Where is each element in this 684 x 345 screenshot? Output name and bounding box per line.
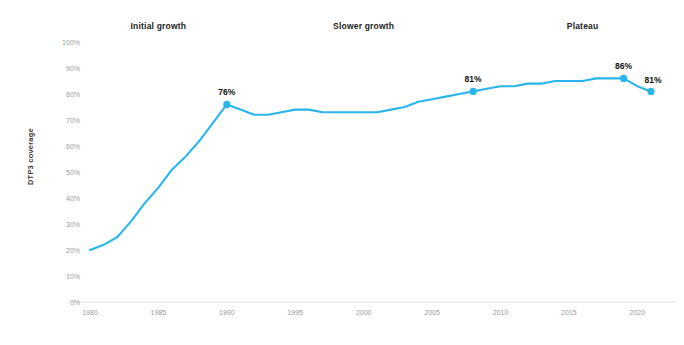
line-chart: DTP3 coverage 0%10%20%30%40%50%60%70%80%… [0, 0, 684, 345]
y-axis-tick-label: 50% [48, 169, 80, 176]
data-point-marker [620, 75, 627, 82]
data-point-value-label: 81% [465, 74, 482, 84]
chart-plot-area [0, 0, 684, 345]
x-axis-tick-label: 2005 [424, 309, 440, 316]
y-axis-tick-label: 0% [48, 299, 80, 306]
x-axis-tick-label: 2010 [493, 309, 509, 316]
x-axis-tick-label: 2020 [630, 309, 646, 316]
y-axis-tick-label: 70% [48, 117, 80, 124]
x-axis-tick-label: 1980 [82, 309, 98, 316]
y-axis-tick-label: 40% [48, 195, 80, 202]
y-axis-tick-label: 80% [48, 91, 80, 98]
data-point-value-label: 76% [218, 87, 235, 97]
phase-label: Plateau [567, 21, 599, 31]
x-axis-tick-label: 1995 [287, 309, 303, 316]
y-axis-tick-label: 10% [48, 273, 80, 280]
coverage-line [90, 78, 651, 250]
x-axis-tick-label: 1990 [219, 309, 235, 316]
x-axis-tick-label: 2015 [561, 309, 577, 316]
data-point-value-label: 86% [615, 61, 632, 71]
phase-label: Initial growth [131, 21, 187, 31]
y-axis-tick-label: 60% [48, 143, 80, 150]
y-axis-title: DTP3 coverage [26, 128, 35, 185]
y-axis-tick-label: 100% [48, 39, 80, 46]
phase-label: Slower growth [333, 21, 394, 31]
data-point-marker [647, 88, 654, 95]
data-point-value-label: 81% [644, 75, 661, 85]
data-point-marker [470, 88, 477, 95]
y-axis-tick-label: 20% [48, 247, 80, 254]
x-axis-tick-label: 1985 [151, 309, 167, 316]
y-axis-tick-label: 90% [48, 65, 80, 72]
y-axis-tick-label: 30% [48, 221, 80, 228]
data-point-marker [223, 101, 230, 108]
x-axis-tick-label: 2000 [356, 309, 372, 316]
